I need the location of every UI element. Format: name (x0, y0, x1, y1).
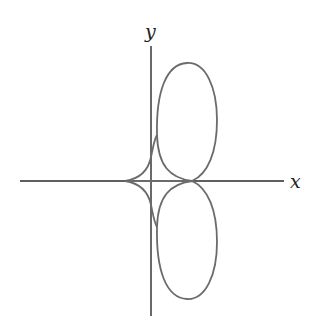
lower-loop (157, 181, 217, 299)
x-axis-label: x (290, 170, 301, 192)
lower-cusp-branch (125, 181, 157, 227)
plot-canvas (0, 0, 316, 335)
y-axis-label: y (145, 20, 156, 42)
upper-cusp-branch (125, 135, 157, 181)
upper-loop (157, 63, 217, 181)
